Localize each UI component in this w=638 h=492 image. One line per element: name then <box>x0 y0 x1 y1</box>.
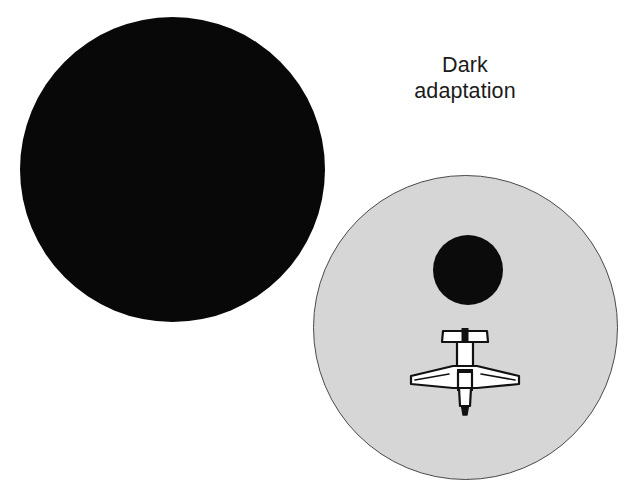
dark-field-circle <box>20 17 325 322</box>
caption-line-1: Dark <box>355 52 575 78</box>
caption-line-2: adaptation <box>355 78 575 104</box>
central-blind-spot <box>433 235 503 305</box>
propeller-spinner <box>462 406 469 415</box>
airplane-body-group <box>411 328 519 415</box>
engine-cowl <box>459 388 471 406</box>
cabin <box>458 372 472 388</box>
airplane-icon <box>405 322 525 426</box>
caption-label: Dark adaptation <box>355 52 575 104</box>
dark-adaptation-figure: Dark adaptation <box>0 0 638 492</box>
